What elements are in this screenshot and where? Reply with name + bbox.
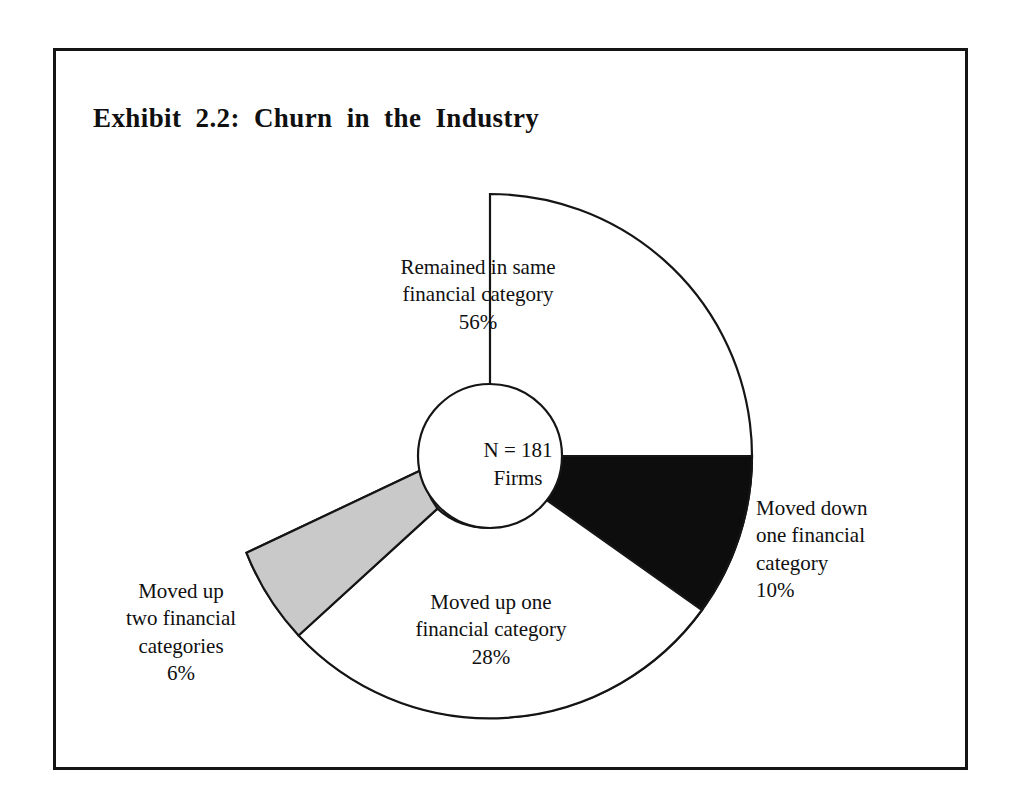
slice-label-line-2: one financial (756, 523, 865, 547)
slice-label-line-2: financial category (416, 617, 567, 641)
slice-label-line-2: financial category (403, 282, 554, 306)
slice-label-line-2: two financial (126, 606, 236, 630)
figure-frame: Exhibit 2.2: Churn in the Industry N = 1… (53, 48, 968, 770)
slice-label-line-1: Remained in same (400, 255, 555, 279)
slice-label-percent: 10% (756, 577, 956, 604)
slice-label-percent: 28% (356, 644, 626, 671)
slice-label-line-1: Moved down (756, 496, 867, 520)
slice-label-line-1: Moved up one (430, 590, 551, 614)
center-annotation: N = 181 Firms (428, 437, 608, 492)
slice-label-remained-in-same-category: Remained in same financial category 56% (348, 254, 608, 336)
center-annotation-unit: Firms (493, 466, 542, 490)
slice-label-moved-up-two-categories: Moved up two financial categories 6% (66, 578, 296, 687)
slice-label-moved-up-one-category: Moved up one financial category 28% (356, 589, 626, 671)
slice-label-percent: 6% (66, 660, 296, 687)
slice-label-line-3: category (756, 551, 828, 575)
figure-page: Exhibit 2.2: Churn in the Industry N = 1… (0, 0, 1016, 812)
center-annotation-n: N = 181 (483, 438, 552, 462)
pie-chart: N = 181 Firms Remained in same financial… (56, 51, 971, 773)
slice-label-line-3: categories (138, 634, 223, 658)
slice-label-moved-down-one-category: Moved down one financial category 10% (756, 495, 956, 604)
slice-label-line-1: Moved up (138, 579, 224, 603)
slice-label-percent: 56% (348, 309, 608, 336)
